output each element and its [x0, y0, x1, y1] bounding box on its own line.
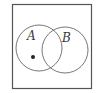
set-b-label: B: [61, 31, 71, 45]
set-a-label: A: [26, 29, 36, 43]
point-in-a: [31, 55, 35, 59]
set-a-circle: [16, 25, 62, 71]
universal-set-box: [13, 5, 92, 89]
venn-diagram: A B: [0, 0, 98, 93]
